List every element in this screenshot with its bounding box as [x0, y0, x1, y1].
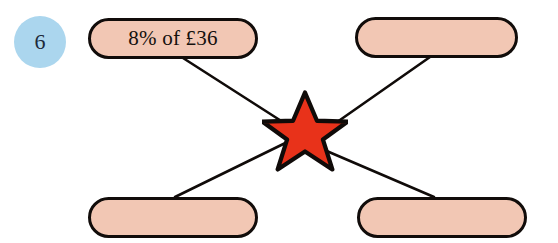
answer-box-top-left-label: 8% of £36	[128, 26, 217, 51]
answer-box-bottom-right[interactable]	[357, 197, 527, 238]
star-shape	[262, 93, 347, 170]
star-icon	[262, 90, 348, 172]
worksheet-question-panel: 6 8% of £36	[0, 0, 558, 243]
answer-box-top-left[interactable]: 8% of £36	[88, 18, 258, 59]
answer-box-bottom-left[interactable]	[88, 197, 258, 238]
answer-box-top-right[interactable]	[355, 17, 518, 58]
